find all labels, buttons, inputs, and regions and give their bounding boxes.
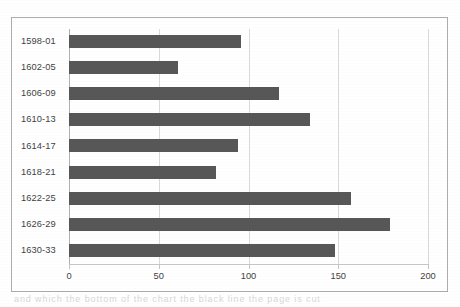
bar-row (69, 160, 428, 186)
bar-row (69, 212, 428, 238)
category-label: 1626-29 (21, 219, 73, 229)
bar (69, 192, 351, 205)
bar (69, 218, 390, 231)
tick-mark-50 (159, 264, 160, 269)
bar-row (69, 133, 428, 159)
bar-row (69, 238, 428, 264)
bar (69, 166, 216, 179)
x-tick-label-200: 200 (408, 271, 448, 281)
category-label: 1606-09 (21, 88, 73, 98)
bar (69, 113, 310, 126)
tick-mark-100 (249, 264, 250, 269)
bar-row (69, 29, 428, 55)
category-label: 1598-01 (21, 36, 73, 46)
tick-mark-0 (69, 264, 70, 269)
bar-row (69, 81, 428, 107)
bar-row (69, 55, 428, 81)
x-tick-label-50: 50 (139, 271, 179, 281)
x-tick-label-0: 0 (49, 271, 89, 281)
plot-area (69, 29, 428, 264)
bar-row (69, 186, 428, 212)
bar (69, 35, 241, 48)
bar-chart-frame: 1598-011602-051606-091610-131614-171618-… (11, 17, 448, 292)
category-label: 1610-13 (21, 114, 73, 124)
category-label: 1618-21 (21, 167, 73, 177)
bar-row (69, 107, 428, 133)
category-label: 1622-25 (21, 193, 73, 203)
category-label: 1602-05 (21, 62, 73, 72)
bar (69, 244, 335, 257)
tick-mark-150 (338, 264, 339, 269)
gridline-200 (428, 29, 429, 264)
x-tick-label-100: 100 (229, 271, 269, 281)
bar (69, 139, 238, 152)
category-label: 1630-33 (21, 245, 73, 255)
tick-mark-200 (428, 264, 429, 269)
scanned-page: 1598-011602-051606-091610-131614-171618-… (0, 0, 460, 307)
category-label: 1614-17 (21, 141, 73, 151)
bar (69, 87, 279, 100)
bar (69, 61, 178, 74)
x-tick-label-150: 150 (318, 271, 358, 281)
scan-bleed-text: and which the bottom of the chart the bl… (14, 294, 446, 307)
